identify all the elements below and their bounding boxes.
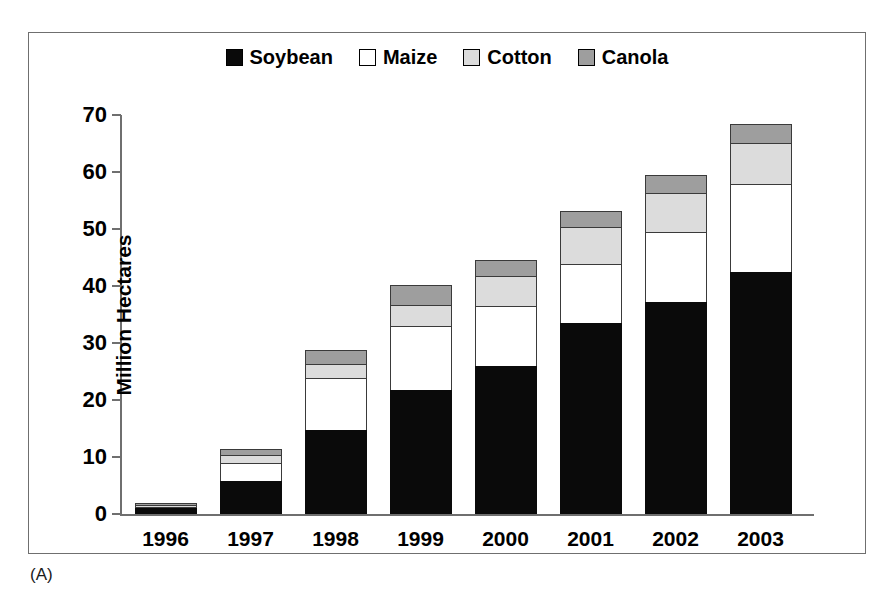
bar-segment-soybean-2000[interactable] [475,366,537,514]
x-axis-tick-label-1999: 1999 [390,528,452,549]
bar-segment-soybean-2001[interactable] [560,323,622,514]
bar-segment-maize-1999[interactable] [390,326,452,390]
medium-gray-swatch [578,49,595,66]
bar-segment-canola-1998[interactable] [305,350,367,364]
y-axis-tick: 10 [83,446,121,468]
bar-2001[interactable] [560,211,622,514]
legend-entry-canola[interactable]: Canola [578,47,669,67]
bar-segment-cotton-1997[interactable] [220,455,282,463]
x-axis-tick-label-2003: 2003 [730,528,792,549]
bar-segment-soybean-1999[interactable] [390,390,452,514]
legend-entry-cotton[interactable]: Cotton [463,47,551,67]
x-axis-tick-label-1998: 1998 [305,528,367,549]
bar-2003[interactable] [730,124,792,514]
y-axis-tick-label: 70 [83,104,107,126]
y-axis-tick-mark [112,456,121,458]
x-axis-tick-label-2001: 2001 [560,528,622,549]
light-gray-swatch [463,49,480,66]
bar-segment-soybean-1998[interactable] [305,430,367,514]
y-axis-tick-mark [112,228,121,230]
bar-segment-canola-2001[interactable] [560,211,622,227]
empty-white-swatch [359,49,376,66]
bar-segment-maize-2003[interactable] [730,184,792,272]
panel-caption: (A) [30,566,53,583]
bar-segment-cotton-2001[interactable] [560,227,622,264]
x-axis-tick-label-2000: 2000 [475,528,537,549]
y-axis-tick: 50 [83,218,121,240]
plot-area: Million Hectares 70605040302010019961997… [121,115,801,514]
y-axis-tick-mark [112,513,121,515]
bar-segment-maize-2000[interactable] [475,306,537,366]
y-axis-tick-label: 0 [95,503,107,525]
bar-segment-maize-1997[interactable] [220,463,282,481]
bar-segment-soybean-2002[interactable] [645,302,707,514]
y-axis-tick-mark [112,114,121,116]
filled-black-swatch [226,49,243,66]
bar-1999[interactable] [390,285,452,514]
y-axis-tick-label: 20 [83,389,107,411]
y-axis-tick-mark [112,285,121,287]
y-axis-title: Million Hectares [112,234,136,395]
y-axis-tick: 0 [95,503,121,525]
bar-1996[interactable] [135,503,197,514]
bar-segment-maize-2001[interactable] [560,264,622,323]
x-axis-line [120,514,814,516]
y-axis-tick: 60 [83,161,121,183]
bar-segment-soybean-2003[interactable] [730,272,792,514]
bar-segment-cotton-2003[interactable] [730,143,792,184]
y-axis-tick-mark [112,342,121,344]
bar-segment-cotton-1999[interactable] [390,305,452,326]
y-axis-tick: 20 [83,389,121,411]
legend-entry-soybean[interactable]: Soybean [226,47,333,67]
y-axis-tick: 40 [83,275,121,297]
legend-label: Maize [383,47,437,67]
bar-segment-canola-2003[interactable] [730,124,792,143]
y-axis-tick-mark [112,399,121,401]
bar-1998[interactable] [305,350,367,514]
y-axis-tick-mark [112,171,121,173]
y-axis-tick: 70 [83,104,121,126]
bar-2002[interactable] [645,175,707,514]
bar-1997[interactable] [220,449,282,514]
bar-segment-cotton-2000[interactable] [475,276,537,306]
scan-bleed-text [180,0,700,6]
bar-segment-canola-2002[interactable] [645,175,707,193]
bar-2000[interactable] [475,260,537,514]
bar-segment-maize-1998[interactable] [305,378,367,429]
bar-segment-soybean-1996[interactable] [135,508,197,514]
y-axis-tick: 30 [83,332,121,354]
bar-segment-canola-1999[interactable] [390,285,452,305]
chart-legend: SoybeanMaizeCottonCanola [29,47,865,67]
figure-frame: SoybeanMaizeCottonCanola Million Hectare… [28,32,866,554]
x-axis-tick-label-1996: 1996 [135,528,197,549]
bar-segment-soybean-1997[interactable] [220,481,282,514]
legend-label: Cotton [487,47,551,67]
bar-segment-canola-2000[interactable] [475,260,537,276]
y-axis-tick-label: 30 [83,332,107,354]
bar-segment-cotton-1998[interactable] [305,364,367,378]
legend-entry-maize[interactable]: Maize [359,47,437,67]
x-axis-tick-label-1997: 1997 [220,528,282,549]
legend-label: Canola [602,47,669,67]
y-axis-tick-label: 60 [83,161,107,183]
bar-segment-cotton-2002[interactable] [645,193,707,232]
y-axis-tick-label: 40 [83,275,107,297]
legend-label: Soybean [250,47,333,67]
y-axis-tick-label: 50 [83,218,107,240]
y-axis-tick-label: 10 [83,446,107,468]
x-axis-tick-label-2002: 2002 [645,528,707,549]
bar-segment-maize-2002[interactable] [645,232,707,302]
